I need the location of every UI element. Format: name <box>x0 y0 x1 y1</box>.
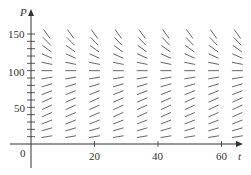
p-tick-label-150: 150 <box>8 28 25 40</box>
p-tick-label-50: 50 <box>14 102 26 114</box>
p-tick-label-100: 100 <box>8 66 25 78</box>
t-tick-label-40: 40 <box>152 150 164 162</box>
t-tick-label-60: 60 <box>216 150 228 162</box>
slope-segments <box>41 30 243 138</box>
p-axis-arrow-icon <box>28 9 34 16</box>
t-tick-label-20: 20 <box>89 150 101 162</box>
slope-field-diagram: P t 0 20 40 60 50 100 150 <box>0 0 251 175</box>
p-axis-label: P <box>19 6 27 18</box>
t-axis-label: t <box>238 150 242 162</box>
origin-label: 0 <box>20 147 26 159</box>
t-axis-arrow-icon <box>236 141 243 147</box>
